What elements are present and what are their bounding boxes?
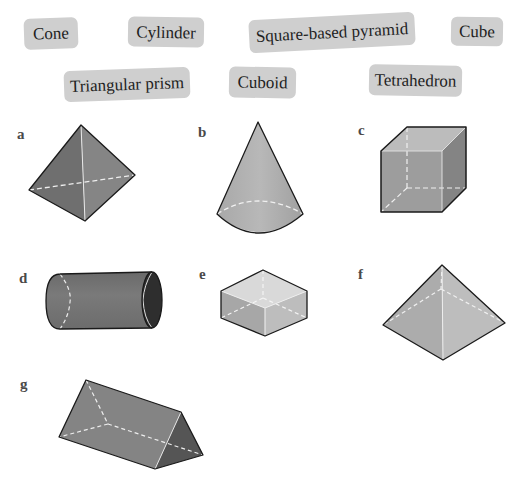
shape-e-cuboid — [221, 270, 307, 336]
shape-g-triangular-prism — [59, 380, 203, 469]
shape-c-cube — [381, 127, 466, 212]
shapes-canvas — [0, 0, 523, 480]
shape-b-cone — [217, 122, 303, 233]
shape-f-square-based-pyramid — [383, 265, 505, 360]
shape-d-cylinder — [46, 272, 162, 329]
shape-a-tetrahedron — [29, 125, 135, 221]
